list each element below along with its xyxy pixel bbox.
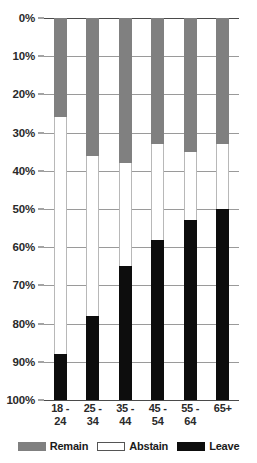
x-axis-tick-line: 34 bbox=[77, 415, 110, 428]
bar-segment-abstain bbox=[119, 163, 132, 266]
y-axis-tick-label: 70% bbox=[13, 279, 35, 291]
legend-label: Leave bbox=[209, 440, 239, 452]
x-axis-tick-line: 64 bbox=[174, 415, 207, 428]
gridline bbox=[44, 324, 239, 325]
y-axis: 0%10%20%30%40%50%60%70%80%90%100% bbox=[0, 0, 44, 463]
y-axis-tick-label: 20% bbox=[13, 88, 35, 100]
y-axis-tick-label: 40% bbox=[13, 165, 35, 177]
x-axis-tick-line: 55 - bbox=[174, 402, 207, 415]
gridline bbox=[44, 18, 239, 19]
gridline bbox=[44, 247, 239, 248]
bar-column bbox=[54, 18, 67, 400]
x-axis-tick-line: 24 bbox=[44, 415, 77, 428]
x-axis-tick-line: 54 bbox=[142, 415, 175, 428]
bar-segment-abstain bbox=[151, 144, 164, 240]
bar-segment-remain bbox=[119, 18, 132, 163]
x-axis-tick-line: 45 - bbox=[142, 402, 175, 415]
x-axis-tick-line: 35 - bbox=[109, 402, 142, 415]
x-axis: 18 -2425 -3435 -4445 -5455 -6465+ bbox=[44, 402, 239, 442]
gridline bbox=[44, 133, 239, 134]
bar-column bbox=[216, 18, 229, 400]
legend-item-leave: Leave bbox=[177, 440, 239, 452]
y-axis-tick-label: 30% bbox=[13, 127, 35, 139]
bar-segment-remain bbox=[54, 18, 67, 117]
gridline bbox=[44, 171, 239, 172]
x-axis-tick-line: 18 - bbox=[44, 402, 77, 415]
bar-segment-remain bbox=[151, 18, 164, 144]
y-axis-tick-label: 80% bbox=[13, 318, 35, 330]
legend-label: Remain bbox=[50, 440, 89, 452]
gridline bbox=[44, 362, 239, 363]
x-axis-tick-label: 25 -34 bbox=[77, 402, 110, 427]
bar-segment-remain bbox=[216, 18, 229, 144]
gridline bbox=[44, 400, 239, 401]
abstain-swatch bbox=[97, 442, 125, 451]
bar-column bbox=[184, 18, 197, 400]
bar-segment-leave bbox=[86, 316, 99, 400]
bar-segment-remain bbox=[184, 18, 197, 152]
plot-area bbox=[44, 18, 239, 400]
legend-label: Abstain bbox=[129, 440, 168, 452]
y-axis-tick-label: 60% bbox=[13, 241, 35, 253]
y-axis-tick-label: 50% bbox=[13, 203, 35, 215]
x-axis-tick-line: 25 - bbox=[77, 402, 110, 415]
x-axis-tick-label: 35 -44 bbox=[109, 402, 142, 427]
remain-swatch bbox=[18, 442, 46, 451]
bar-segment-leave bbox=[151, 240, 164, 400]
x-axis-tick-line: 44 bbox=[109, 415, 142, 428]
x-axis-tick-label: 18 -24 bbox=[44, 402, 77, 427]
gridline bbox=[44, 209, 239, 210]
x-axis-tick-label: 65+ bbox=[207, 402, 240, 415]
leave-swatch bbox=[177, 442, 205, 451]
gridline bbox=[44, 94, 239, 95]
gridline bbox=[44, 56, 239, 57]
y-axis-tick-label: 10% bbox=[13, 50, 35, 62]
legend-item-remain: Remain bbox=[18, 440, 89, 452]
y-axis-tick-label: 100% bbox=[6, 394, 35, 406]
chart-legend: RemainAbstainLeave bbox=[0, 437, 257, 455]
legend-item-abstain: Abstain bbox=[97, 440, 168, 452]
bar-segment-abstain bbox=[184, 152, 197, 221]
y-axis-tick-label: 90% bbox=[13, 356, 35, 368]
y-axis-tick-label: 0% bbox=[19, 12, 35, 24]
gridline bbox=[44, 285, 239, 286]
bar-segment-abstain bbox=[54, 117, 67, 354]
x-axis-tick-label: 55 -64 bbox=[174, 402, 207, 427]
bar-column bbox=[151, 18, 164, 400]
bar-column bbox=[86, 18, 99, 400]
bar-segment-remain bbox=[86, 18, 99, 156]
stacked-bar-chart: 0%10%20%30%40%50%60%70%80%90%100% 18 -24… bbox=[0, 0, 257, 463]
bar-segment-abstain bbox=[86, 156, 99, 316]
bar-column bbox=[119, 18, 132, 400]
bar-segment-leave bbox=[184, 220, 197, 400]
bar-segment-leave bbox=[54, 354, 67, 400]
bar-segment-leave bbox=[119, 266, 132, 400]
bar-segment-leave bbox=[216, 209, 229, 400]
x-axis-tick-label: 45 -54 bbox=[142, 402, 175, 427]
bar-segment-abstain bbox=[216, 144, 229, 209]
x-axis-tick-line: 65+ bbox=[207, 402, 240, 415]
